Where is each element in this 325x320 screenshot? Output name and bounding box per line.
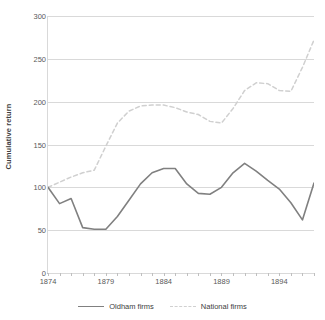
x-tick-mark <box>117 273 118 276</box>
x-tick-mark <box>233 273 234 276</box>
x-tick-mark <box>106 273 107 276</box>
y-axis-title-label: Cumulative return <box>5 104 14 170</box>
x-tick-mark <box>245 273 246 276</box>
series-line-oldham-firms <box>48 163 314 229</box>
chart-legend: Oldham firms National firms <box>0 298 325 314</box>
x-tick-label: 1879 <box>97 277 114 286</box>
x-tick-mark <box>256 273 257 276</box>
x-axis-tick-labels: 18741879188418891894 <box>48 277 314 293</box>
x-tick-label: 1874 <box>40 277 57 286</box>
legend-swatch-dashed-icon <box>170 306 196 307</box>
y-tick-label: 250 <box>20 54 46 63</box>
x-tick-mark <box>83 273 84 276</box>
legend-item-national-firms: National firms <box>170 302 247 311</box>
plot-area <box>48 16 314 273</box>
x-tick-mark <box>175 273 176 276</box>
x-tick-mark <box>164 273 165 276</box>
y-tick-label: 50 <box>20 226 46 235</box>
x-tick-mark <box>94 273 95 276</box>
series-line-national-firms <box>48 40 314 187</box>
x-tick-mark <box>279 273 280 276</box>
legend-label-national-firms: National firms <box>201 302 247 311</box>
x-tick-label: 1889 <box>213 277 230 286</box>
x-tick-mark <box>48 273 49 276</box>
legend-item-oldham-firms: Oldham firms <box>78 302 154 311</box>
x-tick-mark <box>198 273 199 276</box>
y-axis-tick-labels: 050100150200250300 <box>16 0 46 273</box>
x-tick-mark <box>60 273 61 276</box>
legend-label-oldham-firms: Oldham firms <box>109 302 154 311</box>
x-tick-mark <box>71 273 72 276</box>
x-tick-mark <box>152 273 153 276</box>
x-tick-mark <box>129 273 130 276</box>
x-tick-label: 1884 <box>155 277 172 286</box>
legend-swatch-solid-icon <box>78 306 104 307</box>
y-tick-label: 300 <box>20 12 46 21</box>
y-tick-label: 150 <box>20 140 46 149</box>
x-tick-mark <box>141 273 142 276</box>
line-chart: Cumulative return 050100150200250300 187… <box>0 0 325 320</box>
plot-svg <box>48 16 314 273</box>
x-tick-mark <box>221 273 222 276</box>
x-tick-mark <box>210 273 211 276</box>
x-tick-mark <box>314 273 315 276</box>
y-tick-label: 100 <box>20 183 46 192</box>
gridline <box>48 273 314 274</box>
x-tick-label: 1894 <box>271 277 288 286</box>
y-tick-label: 200 <box>20 97 46 106</box>
x-tick-mark <box>291 273 292 276</box>
x-tick-mark <box>187 273 188 276</box>
x-tick-mark <box>268 273 269 276</box>
x-tick-mark <box>302 273 303 276</box>
